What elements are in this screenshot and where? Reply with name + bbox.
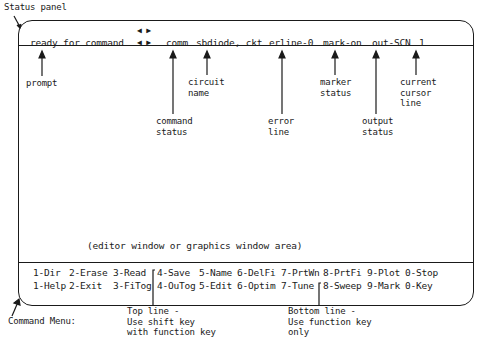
annotation-arrows: [0, 0, 484, 346]
